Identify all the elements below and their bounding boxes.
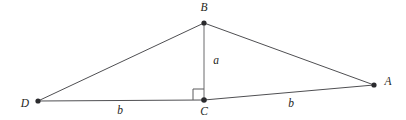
vertex-dot-C [201, 97, 207, 103]
side-label-b-right: b [288, 98, 294, 110]
side-label-b-left: b [117, 105, 123, 117]
vertex-label-D: D [21, 98, 29, 110]
edge-BA [204, 23, 374, 85]
vertex-label-A: A [384, 76, 391, 88]
figure-canvas [0, 0, 406, 120]
edge-DB [38, 23, 204, 101]
vertex-label-C: C [200, 106, 208, 118]
side-label-a: a [213, 55, 219, 67]
vertex-dot-B [201, 20, 206, 25]
vertex-dot-D [35, 98, 40, 103]
geometry-figure: B A C D a b b [0, 0, 406, 120]
edge-DC [38, 100, 204, 101]
vertex-dot-A [371, 82, 376, 87]
vertex-label-B: B [200, 2, 207, 14]
